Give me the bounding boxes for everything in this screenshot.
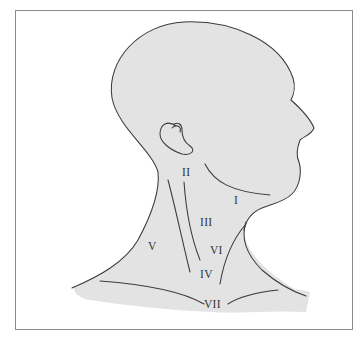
level-label-iii: III (200, 216, 212, 228)
head-silhouette (72, 22, 314, 300)
level-label-ii: II (182, 166, 190, 178)
level-label-iv: IV (200, 268, 213, 280)
level-label-v: V (148, 240, 157, 252)
level-label-i: I (234, 194, 238, 206)
level-label-vi: VI (210, 244, 223, 256)
level-label-vii: VII (204, 298, 221, 310)
neck-levels-diagram: I II III IV V VI VII (0, 0, 359, 341)
